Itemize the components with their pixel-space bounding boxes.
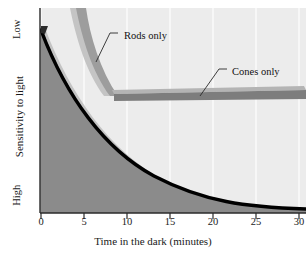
x-axis-tick-15: 15 (165, 216, 176, 227)
x-axis-tick-5: 5 (81, 216, 86, 227)
x-axis-label: Time in the dark (minutes) (0, 236, 306, 247)
y-axis-tick-low: Low (12, 9, 23, 49)
y-axis-tick-high: High (12, 175, 23, 215)
y-axis-label: Sensitivity to light (14, 67, 25, 167)
x-axis-tick-0: 0 (38, 216, 43, 227)
cones-only-annotation: Cones only (232, 66, 280, 77)
x-axis-tick-20: 20 (208, 216, 219, 227)
x-axis-tick-25: 25 (251, 216, 262, 227)
x-axis-tick-10: 10 (122, 216, 133, 227)
x-axis-tick-30: 30 (294, 216, 305, 227)
rods-only-annotation: Rods only (124, 30, 167, 41)
dark-adaptation-chart: Sensitivity to light Low High 0 5 10 15 … (0, 0, 306, 262)
